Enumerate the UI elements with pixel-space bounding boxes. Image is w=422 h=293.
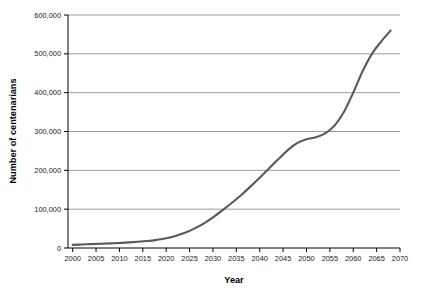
y-tick-label-100000: 100,000	[34, 205, 61, 214]
y-axis-title: Number of centenarians	[8, 78, 18, 183]
x-tick-label-2010: 2010	[111, 254, 127, 263]
x-axis-ticks	[73, 248, 400, 252]
x-tick-label-2020: 2020	[158, 254, 174, 263]
y-axis-ticks	[64, 15, 68, 248]
y-tick-label-0: 0	[57, 244, 61, 253]
y-tick-label-400000: 400,000	[34, 88, 61, 97]
x-tick-label-2050: 2050	[298, 254, 314, 263]
x-tick-label-2070: 2070	[392, 254, 408, 263]
x-tick-label-2015: 2015	[135, 254, 151, 263]
x-tick-label-2060: 2060	[345, 254, 361, 263]
x-tick-label-2065: 2065	[368, 254, 384, 263]
y-tick-label-500000: 500,000	[34, 49, 61, 58]
line-chart: 0 100,000 200,000 300,000 400,000 500,00…	[0, 0, 422, 293]
x-tick-label-2055: 2055	[322, 254, 338, 263]
x-tick-label-2005: 2005	[88, 254, 104, 263]
x-axis-title: Year	[224, 275, 244, 285]
x-tick-label-2035: 2035	[228, 254, 244, 263]
x-tick-label-2000: 2000	[64, 254, 80, 263]
x-tick-label-2025: 2025	[181, 254, 197, 263]
x-tick-label-2030: 2030	[205, 254, 221, 263]
x-tick-label-2040: 2040	[251, 254, 267, 263]
y-tick-label-600000: 600,000	[34, 11, 61, 20]
x-tick-label-2045: 2045	[275, 254, 291, 263]
y-tick-label-200000: 200,000	[34, 166, 61, 175]
y-tick-label-300000: 300,000	[34, 127, 61, 136]
chart-figure: 0 100,000 200,000 300,000 400,000 500,00…	[0, 0, 422, 293]
